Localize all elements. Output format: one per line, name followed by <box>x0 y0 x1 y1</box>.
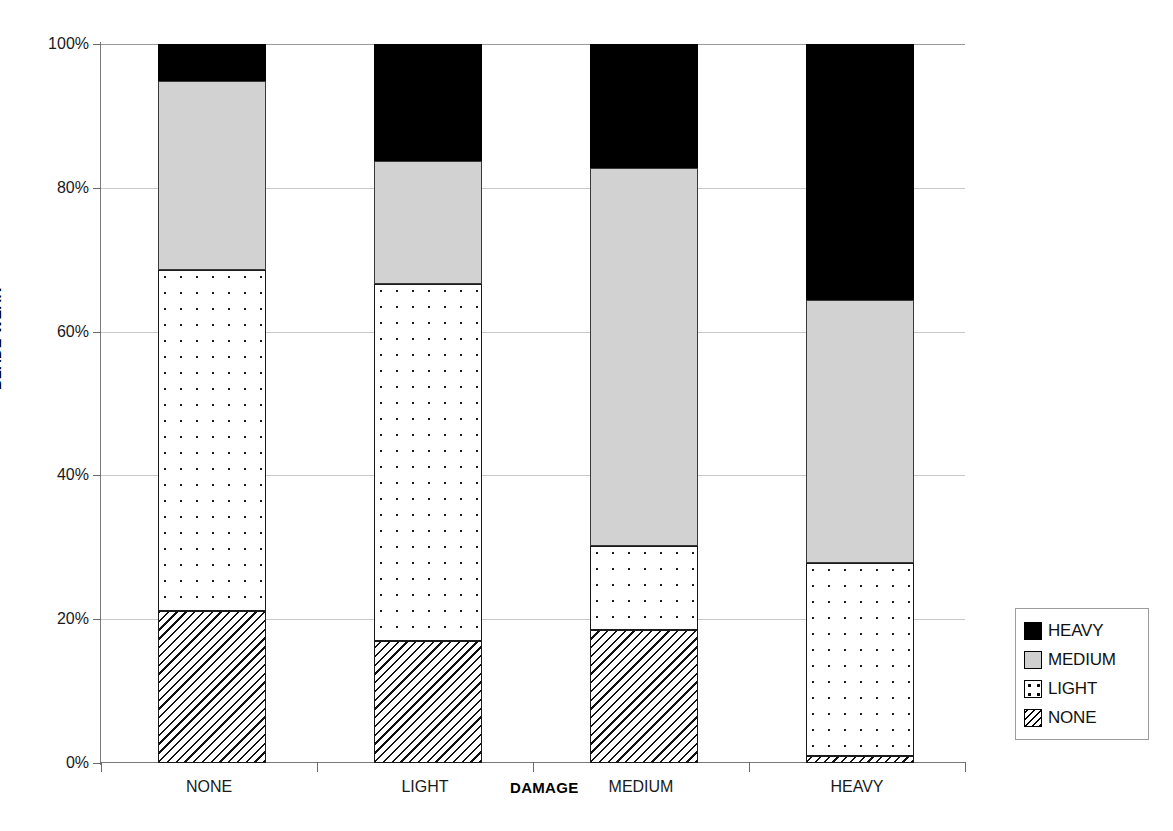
y-tick-100 <box>93 44 101 45</box>
bar-segment-light <box>158 270 266 612</box>
x-tick-label-light: LIGHT <box>317 778 533 796</box>
hatched-swatch-icon <box>1024 709 1042 727</box>
bar-segment-none <box>374 641 482 763</box>
x-category-separator <box>749 762 750 772</box>
legend-label-light: LIGHT <box>1048 679 1097 699</box>
legend-item-none[interactable]: NONE <box>1024 703 1140 732</box>
y-tick-label-0: 0% <box>66 754 89 772</box>
bar-segment-light <box>374 284 482 641</box>
legend-label-none: NONE <box>1048 708 1096 728</box>
legend-item-heavy[interactable]: HEAVY <box>1024 616 1140 645</box>
legend-item-medium[interactable]: MEDIUM <box>1024 645 1140 674</box>
bar-segment-medium <box>590 168 698 546</box>
bar-segment-none <box>590 630 698 763</box>
x-axis-title: DAMAGE <box>510 779 578 796</box>
black-solid-swatch-icon <box>1024 622 1042 640</box>
dotted-swatch-icon <box>1024 680 1042 698</box>
y-tick-label-20: 20% <box>57 610 89 628</box>
x-category-separator <box>965 762 966 772</box>
y-tick-0 <box>93 763 101 764</box>
bar-segment-heavy <box>590 44 698 168</box>
bar-segment-light <box>590 546 698 630</box>
bar-segment-medium <box>806 300 914 563</box>
bar-segment-medium <box>374 161 482 284</box>
y-tick-label-100: 100% <box>48 35 89 53</box>
y-tick-40 <box>93 475 101 476</box>
legend-label-medium: MEDIUM <box>1048 650 1116 670</box>
bar-segment-heavy <box>806 44 914 300</box>
legend-item-light[interactable]: LIGHT <box>1024 674 1140 703</box>
bar-segment-heavy <box>374 44 482 161</box>
y-tick-60 <box>93 332 101 333</box>
y-tick-label-40: 40% <box>57 466 89 484</box>
x-category-separator <box>101 762 102 772</box>
x-tick-label-heavy: HEAVY <box>749 778 965 796</box>
chart-legend: HEAVY MEDIUM LIGHT NONE <box>1015 608 1149 740</box>
legend-label-heavy: HEAVY <box>1048 621 1103 641</box>
y-tick-label-80: 80% <box>57 179 89 197</box>
gray-solid-swatch-icon <box>1024 651 1042 669</box>
y-tick-20 <box>93 619 101 620</box>
bar-segment-medium <box>158 81 266 270</box>
x-category-separator <box>317 762 318 772</box>
x-category-separator <box>533 762 534 772</box>
bar-segment-none <box>158 611 266 763</box>
bar-segment-heavy <box>158 44 266 81</box>
plot-area <box>101 44 965 763</box>
bar-segment-none <box>806 756 914 763</box>
stacked-bar-chart: 100% 80% 60% 40% 20% 0% BLADE WEAR NONE … <box>0 0 1173 831</box>
y-tick-label-60: 60% <box>57 323 89 341</box>
x-tick-label-none: NONE <box>101 778 317 796</box>
bar-segment-light <box>806 563 914 756</box>
y-tick-80 <box>93 188 101 189</box>
y-axis-title: BLADE WEAR <box>0 288 4 390</box>
